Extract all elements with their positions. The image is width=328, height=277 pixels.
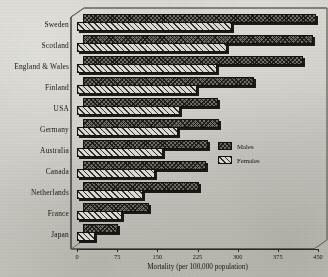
bar-females <box>77 127 178 136</box>
category-label: Finland <box>0 77 72 98</box>
bar-females <box>77 232 95 241</box>
bar-females <box>77 106 180 115</box>
x-tick-mark <box>117 249 118 252</box>
x-tick-label: 150 <box>153 253 162 260</box>
bar-females <box>77 22 232 31</box>
legend-item-males: Males <box>218 139 260 153</box>
bar-females <box>77 169 155 178</box>
x-tick-mark <box>198 249 199 252</box>
category-label: Canada <box>0 161 72 182</box>
legend-label-males: Males <box>237 143 254 150</box>
bar-females <box>77 190 143 199</box>
plot-area: Sweden Scotland England & Wales Finland … <box>0 0 328 277</box>
category-label: Scotland <box>0 35 72 56</box>
x-tick-label: 450 <box>313 253 322 260</box>
category-label: France <box>0 203 72 224</box>
category-label: Sweden <box>0 14 72 35</box>
x-tick-label: 300 <box>233 253 242 260</box>
x-tick-mark <box>157 249 158 252</box>
x-tick-mark <box>238 249 239 252</box>
bar-females <box>77 64 217 73</box>
legend-swatch-females-icon <box>218 156 232 164</box>
x-tick-mark <box>318 249 319 252</box>
x-tick-label: 225 <box>193 253 202 260</box>
x-tick-mark <box>278 249 279 252</box>
x-tick-label: 75 <box>114 253 120 260</box>
chart-page: Sweden Scotland England & Wales Finland … <box>0 0 328 277</box>
legend-swatch-males-icon <box>218 142 232 150</box>
category-label: Japan <box>0 224 72 245</box>
category-axis-labels: Sweden Scotland England & Wales Finland … <box>0 14 72 245</box>
x-axis-title: Mortality (per 100,000 population) <box>77 263 318 271</box>
category-label: England & Wales <box>0 56 72 77</box>
x-tick-label: 375 <box>273 253 282 260</box>
bar-females <box>77 148 163 157</box>
bar-females <box>77 43 227 52</box>
legend-item-females: Females <box>218 153 260 167</box>
category-label: Netherlands <box>0 182 72 203</box>
bar-females <box>77 211 122 220</box>
chart-legend: Males Females <box>218 139 260 167</box>
category-label: Australia <box>0 140 72 161</box>
category-label: Germany <box>0 119 72 140</box>
bar-females <box>77 85 197 94</box>
x-tick-label: 0 <box>75 253 78 260</box>
legend-label-females: Females <box>237 157 260 164</box>
x-tick-mark <box>77 249 78 252</box>
category-label: USA <box>0 98 72 119</box>
